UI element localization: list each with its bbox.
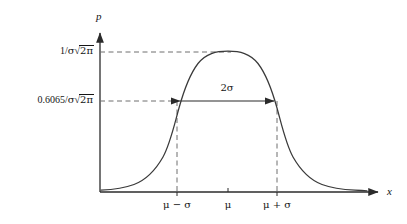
plot-canvas: [0, 0, 407, 224]
ytick-inflection-numerator: 0.6065: [37, 94, 65, 105]
ytick-label-peak: 1/σ√2π: [28, 45, 94, 56]
two-sigma-label: 2σ: [207, 83, 247, 93]
gaussian-curve: [101, 51, 367, 191]
ytick-peak-sigma: σ: [68, 45, 75, 56]
ytick-inflection-radicand: 2π: [79, 94, 94, 105]
x-axis-label: x: [387, 186, 392, 197]
ytick-inflection-sigma: σ: [68, 94, 75, 105]
xtick-label-mu-minus-sigma: μ − σ: [152, 200, 202, 210]
ytick-peak-radicand: 2π: [79, 45, 94, 56]
ytick-label-inflection: 0.6065/σ√2π: [3, 94, 94, 105]
xtick-label-mu: μ: [213, 200, 243, 210]
normal-distribution-figure: p x 1/σ√2π 0.6065/σ√2π μ − σ μ μ + σ 2σ: [0, 0, 407, 224]
y-axis-label: p: [96, 11, 102, 22]
xtick-label-mu-plus-sigma: μ + σ: [252, 200, 302, 210]
